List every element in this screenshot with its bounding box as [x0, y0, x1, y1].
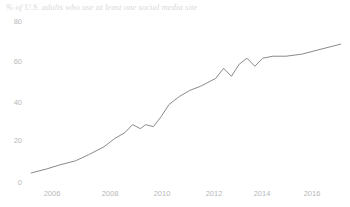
plot-area: [0, 0, 350, 207]
chart-container: % of U.S. adults who use at least one so…: [0, 0, 350, 207]
data-line-social-media: [31, 44, 340, 173]
